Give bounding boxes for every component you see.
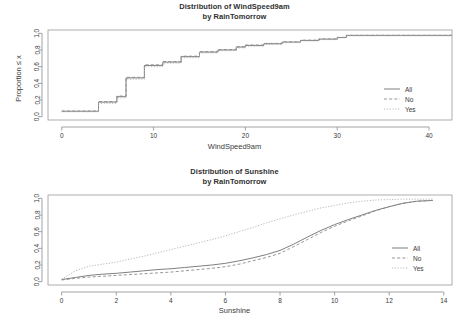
x-tick-label: 12 — [386, 297, 394, 304]
y-tick-label: 0.4 — [34, 78, 41, 87]
legend-label-all: All — [413, 245, 421, 252]
legend-label-no: No — [405, 96, 414, 103]
y-tick-label: 1.0 — [34, 193, 41, 202]
y-tick-label: 0.6 — [34, 62, 41, 71]
series-line-all — [62, 35, 452, 111]
y-axis-label-windspeed9am: Proportion ≤ x — [14, 39, 23, 119]
series-line-no — [62, 200, 433, 280]
x-tick-label: 4 — [169, 297, 173, 304]
series-line-yes — [62, 199, 433, 279]
series-line-yes — [62, 36, 452, 112]
chart-panel-sunshine: Distribution of Sunshine by RainTomorrow… — [0, 165, 469, 329]
y-tick-label: 0.8 — [34, 45, 41, 54]
x-tick-label: 20 — [242, 132, 250, 139]
x-tick-label: 2 — [114, 297, 118, 304]
x-tick-label: 6 — [224, 297, 228, 304]
x-tick-label: 40 — [425, 132, 433, 139]
x-tick-label: 0 — [60, 132, 64, 139]
y-tick-label: 0.2 — [34, 95, 41, 104]
y-tick-label: 0.4 — [34, 243, 41, 252]
y-tick-label: 0.0 — [34, 112, 41, 121]
legend-label-yes: Yes — [413, 265, 424, 272]
chart-panel-windspeed9am: Distribution of WindSpeed9am by RainTomo… — [0, 0, 469, 165]
ecdf-plot-page: Distribution of WindSpeed9am by RainTomo… — [0, 0, 469, 329]
x-tick-label: 10 — [331, 297, 339, 304]
legend-label-no: No — [413, 255, 422, 262]
x-axis-label-windspeed9am: WindSpeed9am — [0, 142, 469, 151]
plot-area-windspeed9am: 0102030400.00.20.40.60.81.0AllNoYes — [0, 0, 469, 165]
plot-area-sunshine: 024681012140.00.20.40.60.81.0AllNoYes — [0, 165, 469, 329]
y-tick-label: 0.8 — [34, 210, 41, 219]
y-tick-label: 0.2 — [34, 260, 41, 269]
series-line-all — [62, 200, 433, 279]
y-tick-label: 1.0 — [34, 28, 41, 37]
y-tick-label: 0.0 — [34, 277, 41, 286]
x-tick-label: 0 — [60, 297, 64, 304]
y-tick-label: 0.6 — [34, 227, 41, 236]
x-axis-label-sunshine: Sunshine — [0, 306, 469, 315]
x-tick-label: 14 — [440, 297, 448, 304]
x-tick-label: 10 — [150, 132, 158, 139]
legend-label-all: All — [405, 86, 413, 93]
x-tick-label: 8 — [278, 297, 282, 304]
x-tick-label: 30 — [334, 132, 342, 139]
legend-label-yes: Yes — [405, 106, 416, 113]
